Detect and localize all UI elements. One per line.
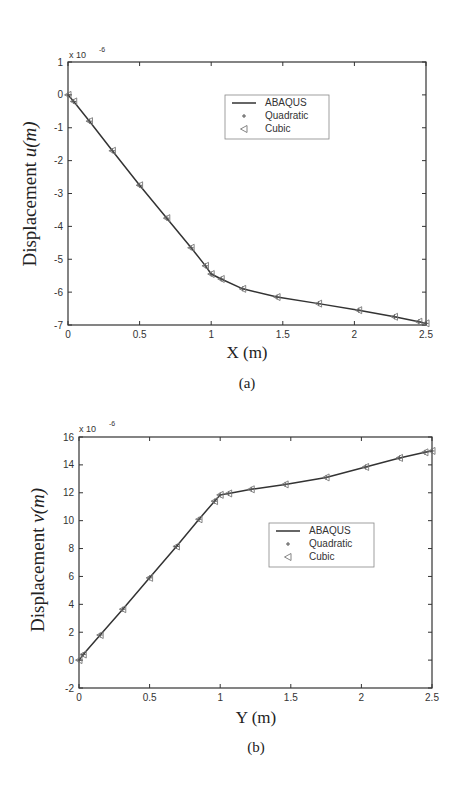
y-tick-label: 10 [63, 515, 75, 526]
y-axis-label-a: Displacement u(m) [19, 121, 41, 266]
y-tick-label: 1 [57, 57, 63, 68]
x-tick-label: 2.5 [425, 692, 439, 703]
caption-b: (b) [247, 739, 265, 756]
x-tick-label: 2 [359, 692, 365, 703]
y-tick-label: -5 [54, 254, 63, 265]
svg-text:Displacement v(m): Displacement v(m) [27, 488, 49, 632]
x-tick-label: 2.5 [419, 329, 433, 340]
svg-text:Displacement u(m): Displacement u(m) [19, 121, 41, 266]
series-abaqus-line [79, 451, 432, 660]
y-tick-label: -3 [54, 188, 63, 199]
y-tick-label: 12 [63, 487, 75, 498]
plot-area-b: 00.511.522.51614121086420-2 [63, 432, 440, 704]
caption-a: (a) [239, 375, 256, 392]
legend-label: Quadratic [265, 110, 308, 121]
y-axis-label-b: Displacement v(m) [27, 488, 49, 632]
y-tick-label: -4 [54, 221, 63, 232]
y-tick-label: 0 [68, 655, 74, 666]
x-tick-label: 2 [352, 329, 358, 340]
y-tick-label: 6 [68, 571, 74, 582]
y-multiplier-a: x 10 -6 [69, 46, 105, 60]
x-tick-label: 0.5 [143, 692, 157, 703]
legend-a: ABAQUSQuadraticCubic [225, 95, 329, 139]
svg-text:x 10: x 10 [69, 50, 86, 60]
x-axis-label-a: X (m) [226, 343, 267, 362]
y-tick-label: -2 [65, 683, 74, 694]
legend-label: Quadratic [309, 538, 352, 549]
y-tick-label: -2 [54, 155, 63, 166]
x-tick-label: 1 [208, 329, 214, 340]
legend-label: Cubic [309, 551, 335, 562]
legend-label: ABAQUS [309, 525, 351, 536]
chart-b: Displacement v(m) x 10 -6 00.511.522.516… [0, 400, 463, 798]
chart-a: Displacement u(m) x 10 -6 00.511.522.510… [0, 0, 463, 400]
x-tick-label: 0 [65, 329, 71, 340]
x-tick-label: 1 [217, 692, 223, 703]
svg-text:x 10: x 10 [79, 424, 96, 434]
legend-label: ABAQUS [265, 97, 307, 108]
y-tick-label: 4 [68, 599, 74, 610]
y-tick-label: -6 [54, 287, 63, 298]
y-tick-label: 8 [68, 543, 74, 554]
y-tick-label: 16 [63, 432, 75, 443]
figure-panel-b: Displacement v(m) x 10 -6 00.511.522.516… [0, 400, 463, 798]
x-tick-label: 1.5 [276, 329, 290, 340]
y-tick-label: 2 [68, 627, 74, 638]
x-tick-label: 0 [76, 692, 82, 703]
legend-b: ABAQUSQuadraticCubic [269, 523, 374, 567]
legend-label: Cubic [265, 123, 291, 134]
x-axis-label-b: Y (m) [236, 708, 276, 727]
y-tick-label: 0 [57, 89, 63, 100]
y-tick-label: 14 [63, 459, 75, 470]
y-multiplier-b: x 10 -6 [79, 420, 115, 434]
svg-text:-6: -6 [109, 420, 115, 427]
figure-panel-a: Displacement u(m) x 10 -6 00.511.522.510… [0, 0, 463, 400]
axes-frame [79, 437, 432, 688]
x-tick-label: 1.5 [284, 692, 298, 703]
x-tick-label: 0.5 [133, 329, 147, 340]
y-tick-label: -1 [54, 122, 63, 133]
svg-text:-6: -6 [99, 46, 105, 53]
y-tick-label: -7 [54, 320, 63, 331]
